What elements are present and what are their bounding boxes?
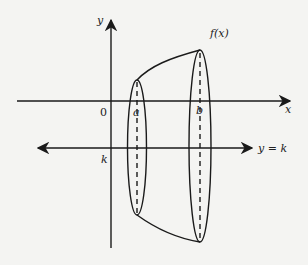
x-axis-label: x: [285, 103, 292, 116]
function-curve-lower: [137, 215, 200, 242]
function-label: f(x): [209, 27, 229, 40]
solid-of-revolution-diagram: y x 0 a b k f(x) y = k: [0, 0, 308, 265]
b-label: b: [196, 104, 203, 117]
origin-label: 0: [100, 106, 107, 119]
rotation-axis-label: y = k: [257, 142, 287, 155]
k-label: k: [101, 153, 108, 166]
y-axis-label: y: [96, 14, 104, 27]
function-curve-upper: [137, 50, 200, 80]
a-label: a: [133, 106, 140, 119]
